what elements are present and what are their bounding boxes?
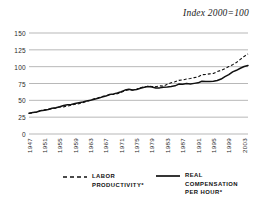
gridlines	[29, 33, 248, 134]
x-tick-label: 1979	[148, 138, 155, 153]
x-tick-label: 1951	[41, 138, 48, 153]
x-axis-tick-labels: 1947195119551959196319671971197519791983…	[0, 138, 265, 166]
x-tick-label: 1987	[179, 138, 186, 153]
x-tick-label: 1947	[26, 138, 33, 153]
x-tick-label: 2003	[241, 138, 248, 153]
x-tick-label: 1995	[210, 138, 217, 153]
chart-plot-svg	[0, 24, 265, 140]
x-tick-label: 1959	[72, 138, 79, 153]
chart-title: Index 2000=100	[183, 8, 249, 18]
x-tick-label: 1983	[164, 138, 171, 153]
legend-label-real-compensation: REAL COMPENSATION PER HOUR*	[185, 171, 238, 197]
legend-item-real-compensation: REAL COMPENSATION PER HOUR*	[156, 171, 238, 197]
legend-item-labor-productivity: LABOR PRODUCTIVITY*	[63, 172, 144, 189]
solid-line-swatch-icon	[156, 172, 180, 180]
legend-label-labor-productivity: LABOR PRODUCTIVITY*	[92, 172, 144, 189]
x-tick-label: 1955	[56, 138, 63, 153]
x-tick-label: 1971	[118, 138, 125, 153]
x-tick-label: 1999	[225, 138, 232, 153]
plot-area	[0, 24, 265, 140]
chart-figure: Index 2000=100 1501251007550250 19471951…	[0, 0, 265, 204]
chart-legend: LABOR PRODUCTIVITY* REAL COMPENSATION PE…	[0, 170, 265, 204]
x-tick-label: 1975	[133, 138, 140, 153]
x-tick-label: 1963	[87, 138, 94, 153]
dashed-line-swatch-icon	[63, 173, 87, 181]
x-tick-label: 1967	[102, 138, 109, 153]
x-tick-label: 1991	[195, 138, 202, 153]
